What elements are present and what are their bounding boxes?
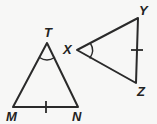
geometry-figure-canvas: T M N X Y Z bbox=[0, 0, 157, 124]
vertex-label-z: Z bbox=[136, 84, 146, 99]
angle-arc-t bbox=[40, 58, 55, 61]
angle-arc-x bbox=[90, 44, 93, 59]
triangle-xyz: X Y Z bbox=[62, 3, 149, 99]
vertex-label-x: X bbox=[62, 42, 73, 57]
geometry-figure: T M N X Y Z bbox=[0, 0, 157, 124]
vertex-label-m: M bbox=[6, 109, 18, 124]
vertex-label-n: N bbox=[72, 109, 82, 124]
vertex-label-y: Y bbox=[139, 3, 149, 18]
triangle-tmn: T M N bbox=[6, 25, 82, 124]
triangle-xyz-outline bbox=[77, 18, 138, 83]
vertex-label-t: T bbox=[44, 25, 53, 40]
